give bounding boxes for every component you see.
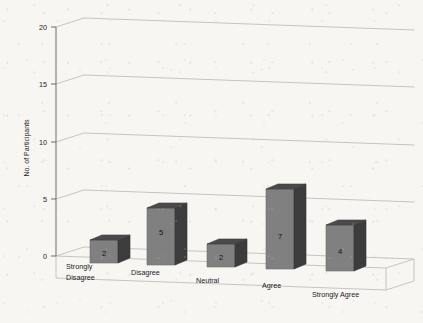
y-axis bbox=[51, 27, 56, 256]
bar-front-face bbox=[266, 189, 294, 269]
bar-disagree[interactable]: 5 bbox=[147, 203, 187, 265]
bar-value-label: 5 bbox=[159, 228, 163, 237]
category-label-neutral: Neutral bbox=[196, 276, 220, 285]
bar-value-label: 4 bbox=[338, 247, 342, 256]
bar-strongly-agree[interactable]: 4 bbox=[326, 220, 366, 271]
bar-side-face bbox=[175, 203, 187, 265]
y-tick-label-5: 5 bbox=[43, 195, 47, 204]
category-label-strongly-disagree-line2: Disagree bbox=[66, 273, 95, 282]
bar-chart-figure: 20 15 10 5 0 No. of Participants 2 5 2 bbox=[0, 0, 423, 323]
y-tick-label-0: 0 bbox=[43, 252, 47, 261]
category-label-strongly-agree: Strongly Agree bbox=[312, 290, 359, 299]
category-label-agree: Agree bbox=[262, 281, 281, 290]
gridline-20 bbox=[56, 18, 414, 30]
gridline-5 bbox=[56, 190, 414, 202]
bar-value-label: 2 bbox=[219, 253, 223, 262]
bar-value-label: 7 bbox=[278, 232, 282, 241]
category-label-disagree: Disagree bbox=[131, 268, 160, 277]
chart-canvas: 20 15 10 5 0 No. of Participants 2 5 2 bbox=[0, 0, 423, 323]
category-label-strongly-disagree-line1: Strongly bbox=[66, 262, 93, 271]
y-tick-label-10: 10 bbox=[39, 138, 47, 147]
y-axis-title: No. of Participants bbox=[23, 119, 31, 177]
bar-value-label: 2 bbox=[102, 249, 106, 258]
bar-side-face bbox=[354, 220, 366, 271]
gridline-15 bbox=[56, 75, 414, 87]
bar-strongly-disagree[interactable]: 2 bbox=[90, 235, 130, 263]
floor-front-rim bbox=[56, 278, 386, 290]
y-tick-label-20: 20 bbox=[39, 23, 47, 32]
bar-side-face bbox=[294, 184, 306, 269]
gridlines bbox=[56, 18, 414, 202]
gridline-10 bbox=[56, 133, 414, 145]
bar-agree[interactable]: 7 bbox=[266, 184, 306, 269]
y-tick-label-15: 15 bbox=[39, 80, 47, 89]
bar-neutral[interactable]: 2 bbox=[207, 239, 247, 267]
